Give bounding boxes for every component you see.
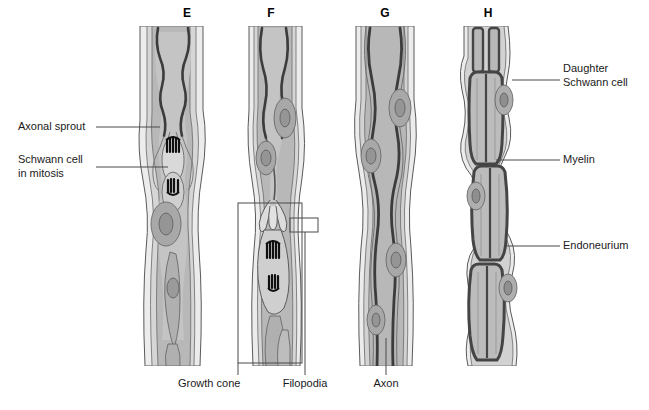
panel-F bbox=[248, 26, 305, 366]
myelin-segment-H-0a bbox=[473, 28, 483, 72]
label-schwann-cell-in-mitosis-line1: Schwann cell bbox=[18, 153, 83, 165]
nucleus-H-2 bbox=[472, 189, 480, 203]
panel-letter-E: E bbox=[183, 6, 191, 20]
panel-E bbox=[139, 26, 205, 366]
nucleus-F-2 bbox=[261, 150, 271, 166]
nucleus-F-1 bbox=[280, 109, 290, 127]
panel-letter-G: G bbox=[380, 6, 389, 20]
label-schwann-cell-in-mitosis-line2: in mitosis bbox=[18, 167, 64, 179]
nucleus-H-3 bbox=[504, 281, 512, 295]
label-filopodia: Filopodia bbox=[283, 377, 329, 389]
label-daughter-schwann-cell-line1: Daughter bbox=[563, 62, 609, 74]
nucleus-G-4 bbox=[372, 313, 380, 327]
nucleus-G-2 bbox=[366, 148, 376, 164]
myelin-segment-H-0b bbox=[489, 28, 499, 72]
nucleus-E-2 bbox=[167, 278, 179, 298]
label-growth-cone: Growth cone bbox=[178, 377, 240, 389]
label-myelin: Myelin bbox=[563, 153, 595, 165]
panel-G bbox=[355, 26, 417, 366]
nucleus-H-1 bbox=[500, 93, 508, 107]
label-daughter-schwann-cell-line2: Schwann cell bbox=[563, 76, 628, 88]
label-axon: Axon bbox=[373, 377, 398, 389]
label-axonal-sprout: Axonal sprout bbox=[18, 120, 85, 132]
panel-letter-H: H bbox=[484, 6, 493, 20]
label-endoneurium: Endoneurium bbox=[563, 239, 628, 251]
panel-letter-F: F bbox=[267, 6, 274, 20]
nucleus-E-1 bbox=[159, 213, 173, 235]
figure-background bbox=[0, 0, 649, 410]
nerve-regeneration-figure: E F G H Axonal sprout Schwann cell in mi… bbox=[0, 0, 649, 410]
filopodium-F-3 bbox=[269, 206, 278, 230]
schwann-cell-E-3 bbox=[165, 344, 180, 366]
nucleus-G-1 bbox=[395, 99, 405, 117]
nucleus-G-3 bbox=[391, 252, 401, 268]
